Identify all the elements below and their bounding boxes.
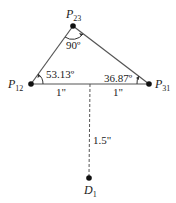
dashed-perpendicular <box>89 84 90 176</box>
dim-left-segment: 1" <box>56 86 66 98</box>
point-d1 <box>86 175 92 181</box>
label-p12: P12 <box>7 77 23 93</box>
label-p31: P31 <box>154 77 170 93</box>
label-d1: D1 <box>83 183 97 199</box>
dim-right-segment: 1" <box>113 86 123 98</box>
point-p23 <box>70 23 76 29</box>
angle-label-p12: 53.13º <box>46 68 75 80</box>
point-p12 <box>28 81 34 87</box>
angle-label-p31: 36.87º <box>104 72 133 84</box>
dim-vertical: 1.5" <box>93 134 111 146</box>
label-p23: P23 <box>65 7 81 23</box>
triangle-diagram: P23 P12 P31 D1 90º 53.13º 36.87º 1" 1" 1… <box>0 0 176 203</box>
angle-label-p23: 90º <box>66 39 81 51</box>
point-p31 <box>146 81 152 87</box>
